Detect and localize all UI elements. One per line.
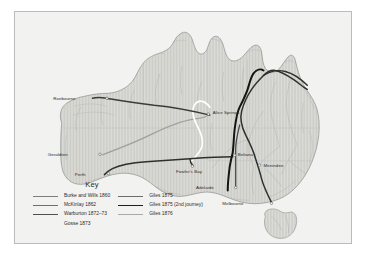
key-entry-label: McKinlay 1862 (64, 203, 96, 208)
key-entry: Gosse 1873 (33, 221, 110, 227)
key-swatch-line (33, 196, 58, 197)
key-swatch-line (118, 196, 143, 197)
key-column-2: Giles 1875Giles 1875 (2nd journey)Giles … (118, 193, 203, 227)
key-entry-label: Giles 1875 (2nd journey) (149, 203, 203, 208)
key-entry: Warburton 1872–73 (33, 212, 110, 218)
key-entry: McKinlay 1862 (33, 202, 110, 208)
city-label-menindee: Menindee (264, 163, 284, 167)
key-entry-label: Burke and Wills 1860 (64, 194, 110, 199)
key-entry: Burke and Wills 1860 (33, 193, 110, 199)
key-swatch-line (33, 205, 58, 206)
key-entry-label: Warburton 1872–73 (64, 212, 107, 217)
key-entry: Giles 1875 (2nd journey) (118, 202, 203, 208)
key-swatch-line (118, 205, 143, 206)
key-entry: Giles 1876 (118, 212, 203, 218)
key-entry: Giles 1875 (118, 193, 203, 199)
key-columns: Burke and Wills 1860McKinlay 1862Warburt… (33, 193, 249, 227)
city-label-roebourne: Roebourne (15, 97, 78, 101)
city-label-beltana: Beltana (238, 153, 253, 157)
city-label-perth: Perth (15, 172, 88, 176)
key-entry-label: Giles 1875 (149, 194, 172, 199)
map-page: RoebourneGeraldtonPerthAlice SpringsFowl… (0, 0, 367, 255)
key-column-1: Burke and Wills 1860McKinlay 1862Warburt… (33, 193, 110, 227)
key-title: Key (33, 180, 151, 189)
key-entry-label: Gosse 1873 (64, 222, 90, 227)
route-warburton-coastal-leg (93, 98, 107, 99)
tasmania-landmass (265, 209, 297, 239)
city-label-fowler-s-bay: Fowler's Bay (176, 169, 202, 173)
city-label-alice-springs: Alice Springs (213, 111, 240, 115)
key-swatch-line (33, 214, 58, 215)
key-entry-label: Giles 1876 (149, 212, 172, 217)
key-swatch-line (118, 214, 143, 215)
map-key: Key Burke and Wills 1860McKinlay 1862War… (33, 180, 249, 227)
map-frame: RoebourneGeraldtonPerthAlice SpringsFowl… (14, 11, 352, 244)
city-label-geraldton: Geraldton (15, 153, 70, 157)
